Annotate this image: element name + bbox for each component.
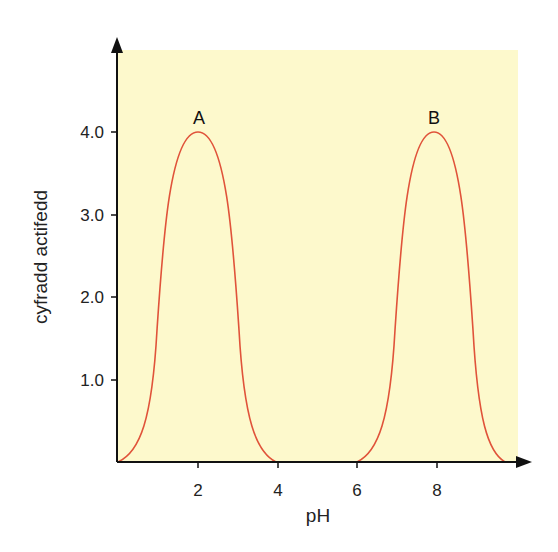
y-axis-title: cyfradd actifedd — [30, 190, 51, 324]
peak-label-b: B — [428, 108, 440, 128]
enzyme-activity-chart: 4.0 3.0 2.0 1.0 2 4 6 8 pH cyfradd actif… — [0, 0, 558, 552]
plot-background — [118, 50, 518, 462]
x-axis-arrow-icon — [516, 456, 532, 468]
y-axis-arrow-icon — [111, 37, 123, 53]
x-tick-label: 8 — [432, 481, 441, 500]
x-tick-label: 4 — [273, 481, 282, 500]
y-tick-label: 4.0 — [80, 123, 104, 142]
x-tick-label: 6 — [352, 481, 361, 500]
y-tick-label: 2.0 — [80, 288, 104, 307]
x-tick-label: 2 — [193, 481, 202, 500]
peak-label-a: A — [193, 108, 205, 128]
y-tick-label: 1.0 — [80, 371, 104, 390]
x-axis-title: pH — [306, 505, 330, 526]
y-tick-label: 3.0 — [80, 206, 104, 225]
